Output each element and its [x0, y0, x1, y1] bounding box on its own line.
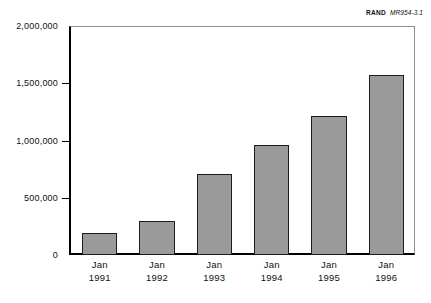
x-axis-label-month: Jan — [300, 259, 357, 272]
bar-1992 — [139, 221, 175, 255]
x-axis-label-year: 1991 — [71, 272, 128, 285]
y-axis-tick-mark — [62, 198, 69, 199]
x-axis-label-year: 1995 — [300, 272, 357, 285]
x-axis-label-month: Jan — [243, 259, 300, 272]
y-axis: 0500,0001,000,0001,500,0002,000,000 — [0, 0, 69, 303]
bar-1993 — [197, 174, 233, 255]
x-axis-tick-label: Jan1992 — [128, 259, 185, 284]
x-axis-label-month: Jan — [186, 259, 243, 272]
bar-series — [71, 26, 415, 255]
x-axis-label-month: Jan — [128, 259, 185, 272]
y-axis-tick-label: 500,000 — [24, 193, 58, 203]
x-axis-label-month: Jan — [71, 259, 128, 272]
x-axis-label-year: 1993 — [186, 272, 243, 285]
y-axis-tick-label: 2,000,000 — [16, 21, 58, 31]
x-axis: Jan1991Jan1992Jan1993Jan1994Jan1995Jan19… — [71, 259, 415, 303]
x-axis-tick-label: Jan1993 — [186, 259, 243, 284]
y-axis-tick-label: 0 — [53, 250, 58, 260]
y-axis-tick-mark — [62, 141, 69, 142]
x-axis-label-year: 1996 — [358, 272, 415, 285]
rand-source-credit: RAND MR954-3.1 — [366, 9, 423, 16]
y-axis-tick-label: 1,500,000 — [16, 78, 58, 88]
rand-document-number: MR954-3.1 — [390, 9, 423, 16]
x-axis-tick-label: Jan1996 — [358, 259, 415, 284]
bar-1991 — [82, 233, 118, 255]
x-axis-tick-label: Jan1994 — [243, 259, 300, 284]
y-axis-tick-label: 1,000,000 — [16, 136, 58, 146]
y-axis-tick-mark — [62, 83, 69, 84]
rand-logo-text: RAND — [366, 9, 386, 16]
x-axis-tick-label: Jan1991 — [71, 259, 128, 284]
x-axis-tick-label: Jan1995 — [300, 259, 357, 284]
bar-1994 — [254, 145, 290, 255]
x-axis-label-year: 1994 — [243, 272, 300, 285]
x-axis-label-year: 1992 — [128, 272, 185, 285]
bar-1996 — [369, 75, 405, 255]
bar-1995 — [311, 116, 347, 255]
bar-chart-figure: RAND MR954-3.1 0500,0001,000,0001,500,00… — [0, 0, 431, 303]
x-axis-label-month: Jan — [358, 259, 415, 272]
